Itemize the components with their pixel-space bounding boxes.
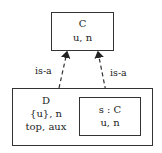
is-a-label-right: is-a <box>110 68 127 78</box>
class-c-name: C <box>52 18 113 30</box>
part-s-name: s : C <box>80 104 140 116</box>
is-a-edge-d-to-c <box>59 52 67 88</box>
class-d-compartment: D {u}, n top, aux <box>13 89 79 145</box>
class-d-name: D <box>13 95 79 107</box>
class-d-box: D {u}, n top, aux s : C u, n <box>12 88 153 146</box>
is-a-label-left: is-a <box>35 66 52 76</box>
class-d-attrs-1: {u}, n <box>13 108 79 120</box>
part-s-attrs: u, n <box>80 117 140 129</box>
part-s-box: s : C u, n <box>79 97 141 136</box>
class-d-attrs-2: top, aux <box>13 121 79 133</box>
class-c-box: C u, n <box>51 12 114 51</box>
class-c-attrs: u, n <box>52 32 113 44</box>
